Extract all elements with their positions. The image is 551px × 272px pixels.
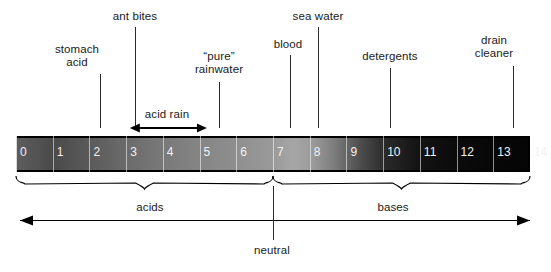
bases-label: bases xyxy=(333,201,453,214)
leader-line-stomach-acid xyxy=(100,74,101,128)
ph-number-13: 13 xyxy=(497,145,525,159)
ph-number-0: 0 xyxy=(20,145,48,159)
ph-number-7: 7 xyxy=(277,145,305,159)
neutral-label: neutral xyxy=(212,244,332,257)
label-drain-cleaner: drain cleaner xyxy=(434,34,551,60)
ph-number-1: 1 xyxy=(57,145,85,159)
neutral-leader-line xyxy=(273,186,274,240)
acids-brace xyxy=(16,176,273,189)
leader-line-pure-rainwater xyxy=(219,82,220,128)
leader-line-blood xyxy=(290,55,291,128)
leader-line-detergents xyxy=(390,68,391,128)
ph-tick-14 xyxy=(530,136,531,172)
ph-number-10: 10 xyxy=(387,145,415,159)
ph-number-5: 5 xyxy=(204,145,232,159)
acid-rain-label: acid rain xyxy=(107,108,227,121)
label-pure-rainwater: “pure” rainwater xyxy=(159,50,279,76)
ph-number-9: 9 xyxy=(350,145,378,159)
ph-number-14: 14 xyxy=(534,145,551,159)
label-stomach-acid: stomach acid xyxy=(17,43,137,69)
ph-bar-number-layer: 01234567891011121314 xyxy=(16,136,530,172)
ph-number-12: 12 xyxy=(461,145,489,159)
ph-number-8: 8 xyxy=(314,145,342,159)
leader-line-sea-water xyxy=(318,27,319,128)
label-ant-bites: ant bites xyxy=(75,10,195,23)
label-detergents: detergents xyxy=(330,50,450,63)
ph-number-4: 4 xyxy=(167,145,195,159)
ph-number-11: 11 xyxy=(424,145,452,159)
acids-label: acids xyxy=(90,201,210,214)
ph-number-2: 2 xyxy=(93,145,121,159)
label-sea-water: sea water xyxy=(258,10,378,23)
leader-line-drain-cleaner xyxy=(513,66,514,128)
bases-brace xyxy=(273,176,530,189)
ph-number-3: 3 xyxy=(130,145,158,159)
ph-scale-diagram: stomach acidant bites“pure” rainwaterblo… xyxy=(0,0,551,272)
acid-base-axis-line xyxy=(20,220,530,221)
ph-number-6: 6 xyxy=(240,145,268,159)
acid-rain-span-line xyxy=(134,127,203,129)
